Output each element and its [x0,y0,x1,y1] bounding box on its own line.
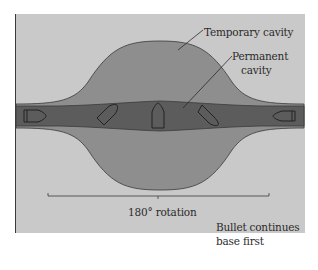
rotation-bracket [48,193,269,199]
bullet-note-line1: Bullet continues [216,221,299,234]
temporary-cavity-label: Temporary cavity [204,26,293,39]
bullet-note-line2: base first [216,235,264,248]
rotation-label: 180° rotation [128,206,197,219]
permanent-cavity-label-line2: cavity [241,64,271,77]
permanent-cavity-label-line1: Permanent [232,50,288,63]
